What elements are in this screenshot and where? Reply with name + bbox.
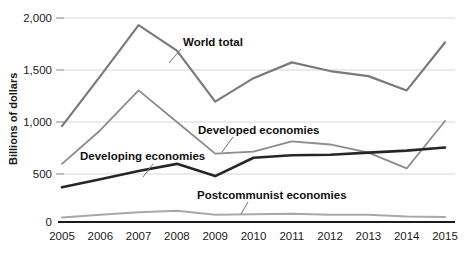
y-tick-label-1500: 1,500	[23, 64, 52, 76]
annotation-developing-economies: Developing economies	[80, 150, 205, 162]
leader-world-total	[169, 49, 181, 63]
line-chart: Billions of dollars 2,000 1,500 1,000 50…	[0, 0, 467, 257]
leader-postcommunist	[241, 202, 248, 214]
y-axis-title: Billions of dollars	[7, 73, 19, 165]
x-tick-label-2006: 2006	[88, 230, 114, 242]
x-tick-label-2012: 2012	[317, 230, 343, 242]
y-tick-label-2000: 2,000	[23, 12, 52, 24]
annotation-developed-economies: Developed economies	[198, 124, 319, 136]
x-tick-label-2013: 2013	[356, 230, 382, 242]
x-tick-label-2010: 2010	[241, 230, 267, 242]
x-tick-label-2011: 2011	[279, 230, 304, 242]
y-tick-label-500: 500	[33, 168, 52, 180]
y-tick-marks	[56, 18, 64, 174]
series-line-postcommunist-economies	[62, 211, 445, 218]
y-tick-label-1000: 1,000	[23, 116, 52, 128]
y-tick-label-0: 0	[46, 216, 52, 228]
x-tick-label-2015: 2015	[432, 230, 458, 242]
x-tick-label-2008: 2008	[164, 230, 190, 242]
leader-developed	[222, 137, 233, 152]
annotation-world-total: World total	[183, 36, 243, 48]
annotation-postcommunist-economies: Postcommunist economies	[197, 189, 347, 201]
x-tick-labels: 2005200620072008200920102011201220132014…	[49, 230, 458, 242]
x-tick-label-2009: 2009	[202, 230, 228, 242]
x-tick-label-2005: 2005	[49, 230, 75, 242]
chart-canvas: Billions of dollars 2,000 1,500 1,000 50…	[0, 0, 467, 257]
x-tick-label-2014: 2014	[394, 230, 420, 242]
x-tick-label-2007: 2007	[126, 230, 152, 242]
